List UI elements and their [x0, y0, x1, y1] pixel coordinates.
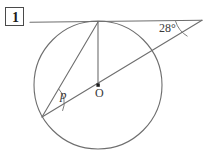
chord-line — [42, 22, 98, 117]
geometry-figure: 1 28° p O — [0, 0, 210, 155]
center-point-label: O — [95, 87, 104, 99]
geometry-canvas — [0, 0, 210, 155]
inscribed-angle-label: p — [60, 88, 67, 101]
exterior-angle-label: 28° — [159, 22, 176, 34]
question-number-badge: 1 — [5, 7, 24, 26]
question-number-label: 1 — [6, 8, 25, 27]
secant-diameter-line — [42, 20, 202, 117]
angle-arc-28 — [176, 21, 188, 36]
